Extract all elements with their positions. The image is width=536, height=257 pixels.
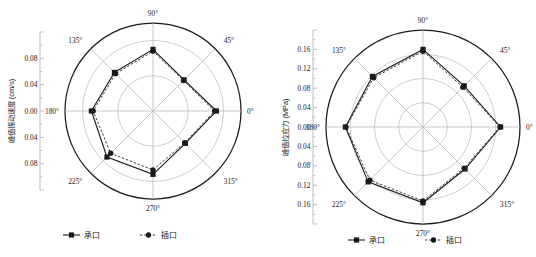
legend-marker-circle bbox=[146, 232, 151, 237]
legend-label-chengkou: 承口 bbox=[84, 231, 100, 240]
data-point-marker bbox=[182, 140, 187, 145]
chart-root: 0.080.040.000.040.08峰值振动速度 (cm/s)0°45°90… bbox=[7, 9, 254, 241]
data-point-marker bbox=[150, 48, 155, 53]
data-point-marker bbox=[104, 154, 109, 159]
axis-tick-label: 0.04 bbox=[25, 80, 38, 89]
axis-tick-label: 0.00 bbox=[25, 107, 38, 116]
legend-label-chakou: 插口 bbox=[161, 230, 177, 240]
axis-tick-label: 0.08 bbox=[298, 161, 311, 170]
data-point-marker bbox=[212, 108, 217, 113]
legend: 承口插口 bbox=[63, 230, 177, 240]
polar-spoke bbox=[423, 127, 492, 196]
angle-label-270: 270° bbox=[416, 229, 430, 238]
legend-marker-circle bbox=[431, 237, 436, 242]
legend-label-chakou: 插口 bbox=[446, 235, 462, 245]
polar-spoke bbox=[91, 111, 153, 173]
angle-label-45: 45° bbox=[224, 36, 234, 45]
legend-marker-square bbox=[69, 232, 74, 237]
y-axis-title: 峰值拉应力 (MPa) bbox=[281, 98, 290, 155]
angle-label-180: 180° bbox=[306, 123, 320, 132]
data-point-marker bbox=[420, 198, 425, 203]
polar-spoke bbox=[91, 49, 153, 111]
data-point-marker bbox=[343, 124, 348, 129]
radial-axis: 0.080.040.000.040.08 bbox=[25, 32, 44, 190]
axis-tick-label: 0.08 bbox=[25, 159, 38, 168]
axis-tick-label: 0.12 bbox=[298, 181, 311, 190]
axis-tick-label: 0.04 bbox=[25, 133, 38, 142]
figure-container: 0.080.040.000.040.08峰值振动速度 (cm/s)0°45°90… bbox=[0, 0, 536, 257]
axis-tick-label: 0.08 bbox=[25, 54, 38, 63]
data-point-marker bbox=[497, 124, 502, 129]
angle-label-225: 225° bbox=[68, 177, 82, 186]
data-point-marker bbox=[181, 78, 186, 83]
data-point-marker bbox=[90, 108, 95, 113]
data-point-marker bbox=[371, 75, 376, 80]
angle-label-90: 90° bbox=[148, 9, 158, 18]
angle-label-0: 0° bbox=[247, 107, 254, 116]
polar-spoke bbox=[354, 127, 423, 196]
legend-label-chengkou: 承口 bbox=[369, 236, 385, 245]
axis-tick-label: 0.04 bbox=[298, 142, 311, 151]
chart-svg: 0.080.040.000.040.08峰值振动速度 (cm/s)0°45°90… bbox=[0, 0, 268, 257]
polar-chart-peak-vibration-velocity: 0.080.040.000.040.08峰值振动速度 (cm/s)0°45°90… bbox=[0, 0, 268, 257]
angle-label-90: 90° bbox=[418, 16, 428, 25]
legend: 承口插口 bbox=[348, 235, 462, 245]
data-point-marker bbox=[367, 177, 372, 182]
chart-root: 0.160.120.080.040.000.040.080.120.16峰值拉应… bbox=[281, 16, 533, 246]
axis-tick-label: 0.12 bbox=[298, 64, 311, 73]
axis-tick-label: 0.16 bbox=[298, 200, 311, 209]
polar-spoke bbox=[354, 58, 423, 127]
angle-label-180: 180° bbox=[45, 107, 59, 116]
angle-label-135: 135° bbox=[68, 36, 82, 45]
polar-spoke bbox=[423, 58, 492, 127]
angle-label-225: 225° bbox=[332, 200, 346, 209]
data-point-marker bbox=[113, 71, 118, 76]
angle-label-270: 270° bbox=[146, 204, 160, 213]
polar-spokes bbox=[326, 30, 520, 224]
chart-svg: 0.160.120.080.040.000.040.080.120.16峰值拉应… bbox=[268, 0, 536, 257]
axis-tick-label: 0.04 bbox=[298, 103, 311, 112]
axis-tick-label: 0.16 bbox=[298, 45, 311, 54]
legend-marker-square bbox=[354, 237, 359, 242]
data-point-marker bbox=[420, 49, 425, 54]
axis-tick-label: 0.08 bbox=[298, 84, 311, 93]
angle-label-315: 315° bbox=[224, 177, 238, 186]
polar-chart-peak-tensile-stress: 0.160.120.080.040.000.040.080.120.16峰值拉应… bbox=[268, 0, 536, 257]
data-point-marker bbox=[460, 84, 465, 89]
angle-label-135: 135° bbox=[332, 46, 346, 55]
data-point-marker bbox=[461, 165, 466, 170]
data-point-marker bbox=[108, 151, 113, 156]
angle-label-315: 315° bbox=[500, 200, 514, 209]
angle-label-45: 45° bbox=[500, 46, 510, 55]
data-point-marker bbox=[150, 167, 155, 172]
angle-label-0: 0° bbox=[526, 123, 533, 132]
y-axis-title: 峰值振动速度 (cm/s) bbox=[7, 79, 16, 144]
